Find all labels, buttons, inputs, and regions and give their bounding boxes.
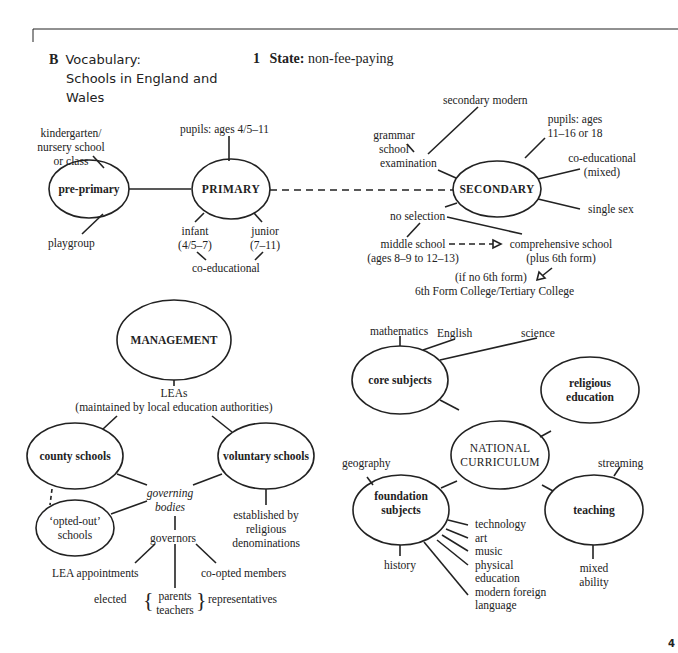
right-brace-icon: } — [196, 588, 207, 612]
label-science: science — [521, 326, 555, 340]
section-title-line2: Schools in England and — [66, 71, 217, 86]
label-music: music — [475, 545, 502, 557]
label-grammar-school: grammarschool — [372, 128, 416, 156]
label-elected: elected — [94, 592, 127, 606]
label-history: history — [384, 558, 416, 572]
label-parents-teachers: parentsteachers — [153, 589, 197, 617]
label-middle-school: middle school(ages 8–9 to 12–13) — [361, 237, 465, 265]
label-mixed-ability: mixedability — [574, 561, 614, 589]
subsection-label: State: — [270, 51, 305, 66]
subsection-heading: 1 State: non-fee-paying — [253, 51, 394, 67]
node-teaching: teaching — [545, 475, 643, 545]
label-governors: governors — [150, 531, 196, 545]
node-foundation-subjects: foundationsubjects — [353, 475, 449, 545]
label-co-opted-members: co-opted members — [201, 566, 286, 580]
node-secondary: SECONDARY — [453, 161, 541, 217]
label-no-selection: no selection — [390, 209, 445, 223]
node-religious-education: religiouseducation — [541, 357, 639, 423]
node-voluntary-schools: voluntary schools — [218, 423, 314, 489]
label-lea-appointments: LEA appointments — [52, 566, 139, 580]
node-pre-primary: pre-primary — [49, 160, 129, 218]
label-established-by: established byreligiousdenominations — [226, 508, 306, 550]
node-national-curriculum: NATIONALCURRICULUM — [451, 421, 549, 489]
section-letter: B — [49, 52, 58, 67]
label-mathematics: mathematics — [370, 324, 428, 338]
subsection-text: non-fee-paying — [308, 51, 394, 66]
label-leas: LEAs(maintained by local education autho… — [40, 386, 308, 414]
foundation-subject-list: technology art music physical education … — [475, 518, 546, 613]
label-governing-bodies: governingbodies — [140, 486, 200, 514]
label-streaming: streaming — [598, 456, 643, 470]
label-examination: examination — [380, 156, 437, 170]
node-core-subjects: core subjects — [352, 346, 448, 414]
node-primary: PRIMARY — [192, 159, 270, 219]
label-primary-coed: co-educational — [192, 261, 260, 275]
label-kindergarten: kindergarten/nursery schoolor class — [35, 126, 107, 168]
label-secondary-coed: co-educational(mixed) — [560, 151, 644, 179]
label-secondary-pupils: pupils: ages11–16 or 18 — [540, 112, 610, 140]
label-no-sixth-form: (if no 6th form) — [455, 270, 527, 284]
section-title-line1: Vocabulary: — [65, 52, 141, 67]
section-title-line3: Wales — [66, 90, 104, 105]
label-single-sex: single sex — [588, 202, 634, 216]
label-junior: junior(7–11) — [245, 224, 285, 252]
label-comprehensive: comprehensive school(plus 6th form) — [503, 237, 619, 265]
label-playgroup: playgroup — [48, 236, 95, 250]
left-brace-icon: { — [143, 588, 154, 612]
label-geography: geography — [342, 456, 391, 470]
label-physical: physical — [475, 559, 513, 571]
node-management: MANAGEMENT — [117, 300, 231, 380]
label-modern-foreign-language: modern foreign — [475, 586, 546, 598]
label-secondary-modern: secondary modern — [443, 93, 528, 107]
label-sixth-form-college: 6th Form College/Tertiary College — [415, 284, 574, 298]
label-art: art — [475, 532, 487, 544]
node-opted-out-schools: ‘opted-out’schools — [36, 514, 114, 542]
label-technology: technology — [475, 518, 526, 530]
page-number: 4 — [668, 638, 675, 649]
label-infant: infant(4/5–7) — [173, 224, 217, 252]
section-heading: B Vocabulary: Schools in England and Wal… — [49, 50, 217, 107]
label-representatives: representatives — [208, 592, 277, 606]
label-primary-pupils: pupils: ages 4/5–11 — [180, 122, 269, 136]
label-english: English — [437, 326, 472, 340]
subsection-number: 1 — [253, 51, 260, 66]
node-county-schools: county schools — [27, 423, 123, 489]
